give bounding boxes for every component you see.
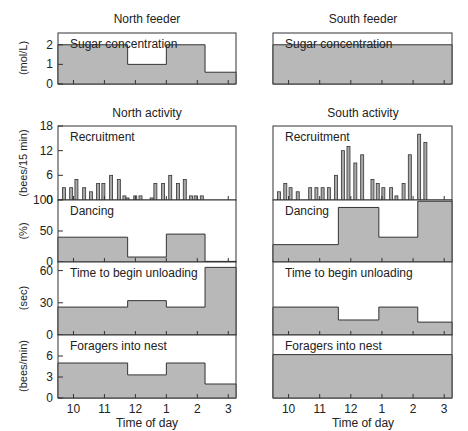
x-tick-label: 10 (67, 402, 81, 416)
recruitment-bar (83, 188, 86, 200)
recruitment-bar (376, 184, 379, 200)
recruitment-bar (289, 188, 292, 200)
north-dancing-panel: 050100Dancing (33, 193, 236, 269)
recruitment-bar (97, 184, 100, 200)
north-unloading-panel: 03060Time to begin unloading (40, 262, 236, 342)
y-tick-label: 0 (46, 328, 53, 342)
recruitment-bar (335, 175, 338, 200)
north-activity-title: North activity (112, 106, 181, 120)
x-tick-label: 1 (379, 402, 386, 416)
foragers-label: Foragers into nest (285, 339, 382, 353)
foragers-label: Foragers into nest (70, 339, 167, 353)
recruitment-bar (176, 184, 179, 200)
recruitment-bar (70, 188, 73, 200)
recruitment-bar (296, 192, 299, 200)
y-tick-label: 0 (46, 77, 53, 91)
sugar-label: Sugar concentration (70, 37, 177, 51)
y-tick-label: 18 (40, 119, 54, 133)
recruitment-bar (154, 184, 157, 200)
recruitment-bar (418, 134, 421, 200)
north-feeder-title: North feeder (114, 12, 181, 26)
x-tick-label: 11 (98, 402, 111, 416)
recruitment-bar (169, 175, 172, 200)
recruitment-label: Recruitment (70, 130, 135, 144)
recruitment-bar (117, 179, 120, 200)
recruitment-bar (390, 188, 393, 200)
south-dancing-panel: Dancing (273, 200, 452, 262)
recruitment-bar (75, 179, 78, 200)
recruitment-bar (63, 188, 66, 200)
step-area (273, 355, 452, 398)
foragers-ylabel: (bees/min) (17, 340, 29, 392)
recruitment-label: Recruitment (285, 130, 350, 144)
y-tick-label: 3 (46, 370, 53, 384)
recruitment-bar (284, 184, 287, 200)
south-activity-title: South activity (327, 106, 398, 120)
recruitment-bar (408, 155, 411, 200)
recruitment-bar (110, 175, 113, 200)
south-feeder-title: South feeder (329, 12, 398, 26)
x-tick-label: 12 (344, 402, 358, 416)
recruitment-bar (139, 196, 142, 200)
recruitment-bar (402, 184, 405, 200)
y-tick-label: 12 (40, 144, 54, 158)
x-tick-label: 2 (194, 402, 201, 416)
recruitment-ylabel: (bees/15 min) (17, 129, 29, 196)
x-tick-label: 11 (313, 402, 326, 416)
unloading-label: Time to begin unloading (285, 266, 413, 280)
recruitment-bar (309, 188, 312, 200)
recruitment-bar (361, 155, 364, 200)
sugar-label: Sugar concentration (285, 37, 392, 51)
south-recruitment-panel: Recruitment (273, 126, 452, 200)
x-tick-label: 12 (129, 402, 143, 416)
recruitment-bar (395, 196, 398, 200)
y-tick-label: 60 (40, 264, 54, 278)
dancing-label: Dancing (285, 204, 329, 218)
recruitment-bar (424, 142, 427, 200)
dancing-ylabel: (%) (17, 222, 29, 239)
recruitment-bar (123, 196, 126, 200)
south-unloading-panel: Time to begin unloading (273, 262, 452, 335)
recruitment-bar (354, 163, 357, 200)
x-tick-label: 1 (163, 402, 170, 416)
x-tick-label: 2 (410, 402, 417, 416)
north-foragers-panel: 036Foragers into nest101112123 (46, 335, 236, 416)
recruitment-bar (371, 179, 374, 200)
recruitment-bar (183, 179, 186, 200)
recruitment-bar (315, 188, 318, 200)
recruitment-bar (321, 188, 324, 200)
south-xlabel: Time of day (332, 416, 394, 430)
y-tick-label: 100 (33, 193, 53, 207)
y-tick-label: 50 (40, 224, 54, 238)
y-tick-label: 0 (46, 391, 53, 405)
x-tick-label: 3 (441, 402, 448, 416)
recruitment-bar (194, 196, 197, 200)
north-feeder-sugar-panel: 012Sugar concentration (46, 33, 236, 91)
south-foragers-panel: Foragers into nest101112123 (273, 335, 452, 416)
north-recruitment-panel: 061218Recruitment (40, 119, 236, 207)
south-feeder-sugar-panel: Sugar concentration (273, 33, 452, 84)
recruitment-bar (278, 192, 281, 200)
dancing-label: Dancing (70, 204, 114, 218)
recruitment-bar (327, 188, 330, 200)
y-tick-label: 30 (40, 296, 54, 310)
x-tick-label: 10 (282, 402, 296, 416)
recruitment-bar (189, 196, 192, 200)
recruitment-bar (341, 151, 344, 200)
y-tick-label: 6 (46, 349, 53, 363)
y-tick-label: 1 (46, 57, 53, 71)
y-tick-label: 6 (46, 168, 53, 182)
recruitment-bar (89, 192, 92, 200)
north-xlabel: Time of day (116, 416, 178, 430)
unloading-ylabel: (sec) (17, 286, 29, 310)
figure: North feeder South feeder North activity… (0, 0, 468, 431)
recruitment-bar (347, 147, 350, 200)
sugar-ylabel: (mol/L) (17, 41, 29, 75)
recruitment-bar (162, 184, 165, 200)
recruitment-bar (200, 196, 203, 200)
y-tick-label: 2 (46, 38, 53, 52)
unloading-label: Time to begin unloading (70, 266, 198, 280)
x-tick-label: 3 (225, 402, 232, 416)
